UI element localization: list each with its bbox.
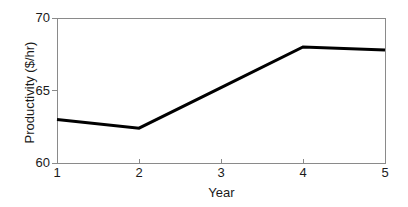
x-tick-mark-1 xyxy=(57,159,58,164)
x-tick-label-4: 4 xyxy=(293,166,313,179)
x-axis-title: Year xyxy=(57,186,386,200)
y-axis-title: Productivity ($/hr) xyxy=(22,20,38,165)
x-tick-mark-2 xyxy=(139,159,140,164)
x-tick-mark-3 xyxy=(221,159,222,164)
axis-top-spine xyxy=(57,18,386,19)
y-tick-mark-65 xyxy=(52,90,57,91)
axis-y-spine xyxy=(57,18,58,164)
x-tick-label-5: 5 xyxy=(375,166,395,179)
x-tick-mark-4 xyxy=(303,159,304,164)
x-tick-label-3: 3 xyxy=(211,166,231,179)
axis-right-spine xyxy=(385,18,386,164)
y-tick-mark-70 xyxy=(52,18,57,19)
x-tick-mark-5 xyxy=(385,159,386,164)
x-tick-label-2: 2 xyxy=(129,166,149,179)
chart-screenshot: 70 65 60 1 2 3 4 5 Productivity ($/hr) Y… xyxy=(0,0,408,207)
line-series-productivity xyxy=(57,47,385,128)
x-tick-label-1: 1 xyxy=(47,166,67,179)
